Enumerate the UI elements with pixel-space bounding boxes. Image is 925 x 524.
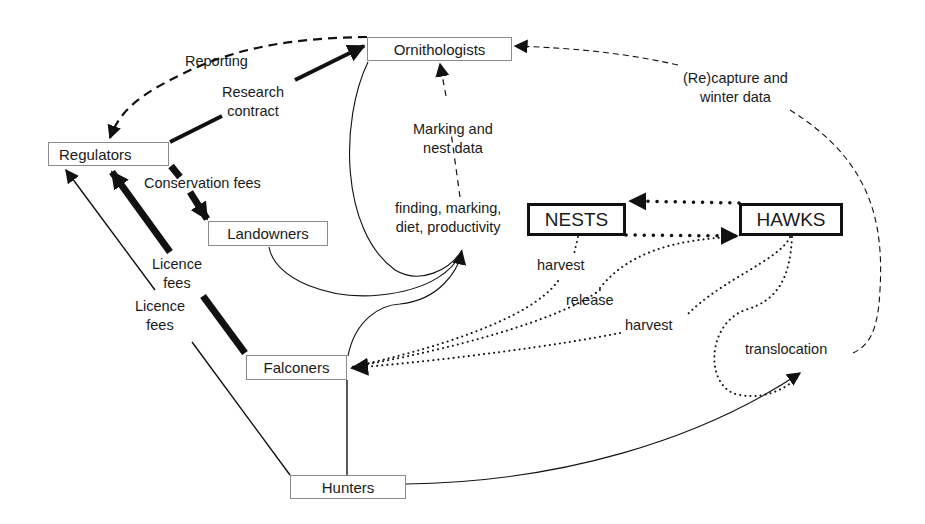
node-falconers: Falconers — [246, 355, 347, 380]
edge-harvest-nests — [574, 237, 578, 254]
label-fees-2: fees — [135, 316, 185, 335]
label-marking-and: Marking and — [413, 120, 493, 139]
label-harvest-nests: harvest — [537, 256, 585, 275]
label-finding-1: finding, marking, — [395, 199, 501, 218]
label-nest-data: nest data — [413, 139, 493, 158]
label-reporting: Reporting — [185, 52, 248, 71]
label-finding-marking: finding, marking, diet, productivity — [395, 199, 501, 237]
edge-research-contract — [170, 116, 222, 142]
edge-landowners-activity — [269, 247, 462, 296]
node-landowners: Landowners — [208, 221, 328, 246]
node-regulators: Regulators — [48, 142, 169, 166]
edge-translocation — [714, 237, 800, 396]
label-fees-1: fees — [152, 274, 202, 293]
node-ornithologists: Ornithologists — [367, 37, 512, 61]
edge-hawks-to-nests — [630, 201, 739, 203]
edge-licence-fees-falconers — [203, 296, 245, 353]
label-release: release — [566, 291, 614, 310]
label-licence-fees-falconers: Licence fees — [152, 255, 202, 293]
label-licence-fees-hunters: Licence fees — [135, 297, 185, 335]
edge-harvest-hawks — [686, 237, 790, 316]
label-recapture: (Re)capture and winter data — [683, 69, 788, 107]
label-contract: contract — [222, 102, 284, 121]
label-research: Research — [222, 83, 284, 102]
label-licence-1: Licence — [152, 255, 202, 274]
label-licence-2: Licence — [135, 297, 185, 316]
edge-nests-to-hawks — [626, 235, 737, 236]
node-hawks: HAWKS — [739, 203, 843, 236]
label-finding-2: diet, productivity — [395, 218, 501, 237]
node-nests: NESTS — [527, 203, 626, 236]
label-research-contract: Research contract — [222, 83, 284, 121]
edge-release — [352, 290, 600, 367]
label-harvest-hawks: harvest — [625, 316, 673, 335]
edge-hunters-translocation — [406, 373, 800, 484]
label-marking-nest-data: Marking and nest data — [413, 120, 493, 158]
label-conservation-fees: Conservation fees — [144, 174, 261, 193]
label-recapture-1: (Re)capture and — [683, 69, 788, 88]
node-hunters: Hunters — [290, 475, 406, 499]
label-recapture-2: winter data — [683, 88, 788, 107]
label-translocation: translocation — [745, 340, 827, 359]
